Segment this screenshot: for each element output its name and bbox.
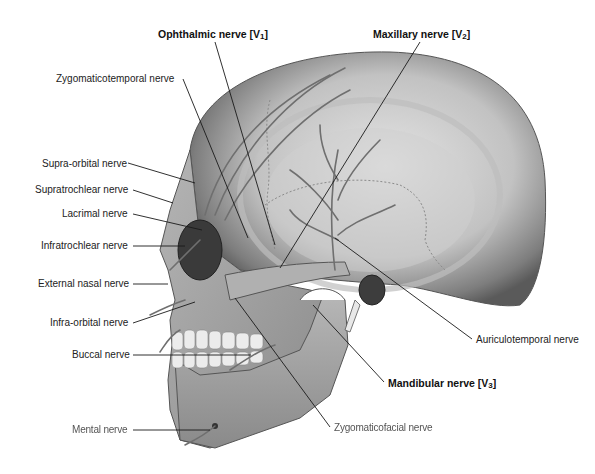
label-maxillary-nerve: Maxillary nerve [V2] xyxy=(373,28,470,43)
skull-illustration xyxy=(0,0,595,474)
label-supratrochlear-nerve: Supratrochlear nerve xyxy=(35,184,128,196)
styloid-process xyxy=(345,300,360,332)
label-mandibular-nerve: Mandibular nerve [V3] xyxy=(388,377,496,392)
orbit xyxy=(178,220,222,280)
label-infra-orbital-nerve: Infra-orbital nerve xyxy=(50,317,128,329)
label-zygomaticofacial-nerve: Zygomaticofacial nerve xyxy=(334,422,432,434)
label-infratrochlear-nerve: Infratrochlear nerve xyxy=(41,240,128,252)
label-auriculotemporal-nerve: Auriculotemporal nerve xyxy=(476,334,579,346)
label-buccal-nerve: Buccal nerve xyxy=(72,349,130,361)
label-ophthalmic-nerve: Ophthalmic nerve [V1] xyxy=(158,28,268,43)
external-acoustic-meatus xyxy=(359,275,385,305)
label-external-nasal-nerve: External nasal nerve xyxy=(38,278,129,290)
label-supra-orbital-nerve: Supra-orbital nerve xyxy=(42,158,127,170)
label-mental-nerve: Mental nerve xyxy=(72,424,127,436)
leader-supratrochlear xyxy=(133,190,173,203)
label-lacrimal-nerve: Lacrimal nerve xyxy=(62,208,128,220)
label-zygomaticotemporal-nerve: Zygomaticotemporal nerve xyxy=(56,73,174,85)
